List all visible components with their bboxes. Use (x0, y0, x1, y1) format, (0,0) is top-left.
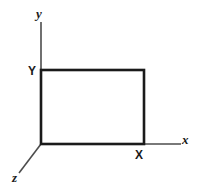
z-axis-line (19, 144, 41, 173)
z-axis-label: z (12, 171, 17, 184)
figure-canvas: y x z Y X (0, 0, 199, 190)
Y-vertex-label: Y (28, 65, 36, 77)
y-axis-label: y (36, 7, 42, 20)
xy-plane-rectangle (41, 70, 144, 144)
x-axis-label: x (182, 133, 189, 146)
X-vertex-label: X (135, 149, 143, 161)
coordinate-axes-drawing (0, 0, 199, 190)
